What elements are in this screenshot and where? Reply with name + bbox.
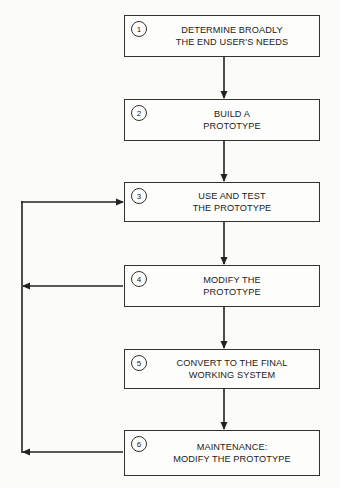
step-label-line: PROTOTYPE [203, 120, 260, 132]
step-label-line: MODIFY THE PROTOTYPE [173, 453, 290, 465]
step-label-line: USE AND TEST [198, 190, 265, 202]
step-number-badge: 6 [131, 436, 147, 452]
step-label: CONVERT TO THE FINAL WORKING SYSTEM [149, 350, 315, 388]
step-label-line: PROTOTYPE [203, 286, 260, 298]
step-label: USE AND TEST THE PROTOTYPE [149, 183, 315, 221]
step-box-2: 2 BUILD A PROTOTYPE [124, 99, 320, 141]
step-number-badge: 4 [131, 271, 147, 287]
step-label-line: MODIFY THE [203, 274, 260, 286]
step-box-3: 3 USE AND TEST THE PROTOTYPE [124, 182, 320, 222]
step-label-line: MAINTENANCE: [197, 441, 268, 453]
step-label-line: WORKING SYSTEM [189, 369, 276, 381]
step-label-line: BUILD A [214, 108, 250, 120]
step-box-5: 5 CONVERT TO THE FINAL WORKING SYSTEM [124, 349, 320, 389]
step-number-badge: 3 [131, 188, 147, 204]
step-label-line: THE END USER'S NEEDS [176, 36, 289, 48]
step-label: MAINTENANCE: MODIFY THE PROTOTYPE [149, 431, 315, 475]
step-label: MODIFY THE PROTOTYPE [149, 266, 315, 306]
step-box-4: 4 MODIFY THE PROTOTYPE [124, 265, 320, 307]
step-number-badge: 5 [131, 355, 147, 371]
step-label-line: DETERMINE BROADLY [181, 24, 283, 36]
step-label-line: CONVERT TO THE FINAL [177, 357, 288, 369]
step-label: DETERMINE BROADLY THE END USER'S NEEDS [149, 16, 315, 56]
step-box-1: 1 DETERMINE BROADLY THE END USER'S NEEDS [124, 15, 320, 57]
step-number-badge: 2 [131, 105, 147, 121]
step-label-line: THE PROTOTYPE [193, 202, 272, 214]
step-label: BUILD A PROTOTYPE [149, 100, 315, 140]
connector-lines [0, 0, 340, 488]
step-box-6: 6 MAINTENANCE: MODIFY THE PROTOTYPE [124, 430, 320, 476]
step-number-badge: 1 [131, 21, 147, 37]
